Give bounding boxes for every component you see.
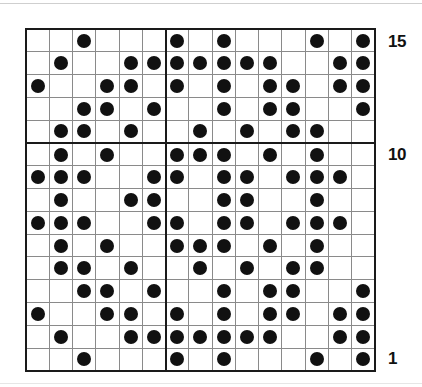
stitch-cell-filled[interactable] <box>96 234 119 257</box>
stitch-cell-empty[interactable] <box>259 189 282 212</box>
stitch-cell-filled[interactable] <box>212 143 235 166</box>
stitch-cell-empty[interactable] <box>26 280 49 303</box>
stitch-cell-empty[interactable] <box>26 52 49 75</box>
stitch-cell-empty[interactable] <box>119 280 142 303</box>
stitch-cell-filled[interactable] <box>259 234 282 257</box>
stitch-cell-empty[interactable] <box>352 120 375 143</box>
stitch-cell-empty[interactable] <box>96 348 119 371</box>
stitch-cell-filled[interactable] <box>26 75 49 98</box>
stitch-cell-empty[interactable] <box>73 189 96 212</box>
stitch-cell-filled[interactable] <box>282 120 305 143</box>
stitch-cell-empty[interactable] <box>96 189 119 212</box>
stitch-cell-empty[interactable] <box>96 52 119 75</box>
stitch-cell-filled[interactable] <box>166 166 189 189</box>
stitch-cell-filled[interactable] <box>166 29 189 52</box>
stitch-cell-empty[interactable] <box>189 189 212 212</box>
stitch-cell-filled[interactable] <box>49 120 72 143</box>
stitch-cell-empty[interactable] <box>328 280 351 303</box>
stitch-cell-filled[interactable] <box>73 280 96 303</box>
stitch-cell-empty[interactable] <box>26 325 49 348</box>
stitch-cell-empty[interactable] <box>352 211 375 234</box>
stitch-cell-filled[interactable] <box>189 257 212 280</box>
stitch-cell-filled[interactable] <box>259 280 282 303</box>
stitch-cell-filled[interactable] <box>49 257 72 280</box>
stitch-cell-filled[interactable] <box>49 211 72 234</box>
stitch-cell-filled[interactable] <box>142 52 165 75</box>
stitch-cell-empty[interactable] <box>26 257 49 280</box>
stitch-cell-filled[interactable] <box>328 52 351 75</box>
stitch-cell-filled[interactable] <box>212 166 235 189</box>
stitch-cell-empty[interactable] <box>73 303 96 326</box>
stitch-cell-empty[interactable] <box>73 75 96 98</box>
stitch-cell-filled[interactable] <box>142 166 165 189</box>
stitch-cell-filled[interactable] <box>235 52 258 75</box>
stitch-cell-filled[interactable] <box>305 120 328 143</box>
stitch-cell-empty[interactable] <box>328 120 351 143</box>
stitch-cell-filled[interactable] <box>282 166 305 189</box>
stitch-cell-filled[interactable] <box>259 52 282 75</box>
stitch-cell-filled[interactable] <box>73 120 96 143</box>
stitch-cell-empty[interactable] <box>189 166 212 189</box>
stitch-cell-filled[interactable] <box>73 211 96 234</box>
stitch-cell-empty[interactable] <box>49 348 72 371</box>
stitch-cell-empty[interactable] <box>235 75 258 98</box>
stitch-cell-filled[interactable] <box>282 280 305 303</box>
stitch-cell-empty[interactable] <box>166 97 189 120</box>
stitch-cell-empty[interactable] <box>73 325 96 348</box>
stitch-cell-empty[interactable] <box>235 303 258 326</box>
stitch-cell-filled[interactable] <box>96 280 119 303</box>
stitch-cell-filled[interactable] <box>305 143 328 166</box>
stitch-cell-filled[interactable] <box>166 303 189 326</box>
stitch-cell-filled[interactable] <box>352 97 375 120</box>
stitch-cell-filled[interactable] <box>142 97 165 120</box>
stitch-cell-empty[interactable] <box>259 29 282 52</box>
stitch-cell-empty[interactable] <box>96 325 119 348</box>
stitch-cell-filled[interactable] <box>352 325 375 348</box>
stitch-cell-empty[interactable] <box>96 166 119 189</box>
stitch-cell-empty[interactable] <box>96 211 119 234</box>
stitch-cell-filled[interactable] <box>328 75 351 98</box>
stitch-cell-filled[interactable] <box>282 97 305 120</box>
stitch-cell-filled[interactable] <box>305 211 328 234</box>
stitch-cell-empty[interactable] <box>166 280 189 303</box>
stitch-cell-filled[interactable] <box>189 234 212 257</box>
stitch-cell-empty[interactable] <box>96 120 119 143</box>
stitch-cell-filled[interactable] <box>49 52 72 75</box>
stitch-cell-empty[interactable] <box>352 257 375 280</box>
stitch-cell-filled[interactable] <box>119 120 142 143</box>
stitch-cell-filled[interactable] <box>26 303 49 326</box>
stitch-cell-filled[interactable] <box>328 166 351 189</box>
stitch-cell-empty[interactable] <box>282 143 305 166</box>
stitch-cell-empty[interactable] <box>189 75 212 98</box>
stitch-cell-empty[interactable] <box>328 234 351 257</box>
stitch-cell-empty[interactable] <box>282 189 305 212</box>
stitch-cell-filled[interactable] <box>305 234 328 257</box>
stitch-cell-empty[interactable] <box>212 120 235 143</box>
stitch-cell-filled[interactable] <box>212 211 235 234</box>
stitch-cell-filled[interactable] <box>166 325 189 348</box>
stitch-cell-empty[interactable] <box>73 234 96 257</box>
stitch-cell-empty[interactable] <box>282 234 305 257</box>
stitch-cell-filled[interactable] <box>259 303 282 326</box>
stitch-cell-filled[interactable] <box>352 52 375 75</box>
stitch-cell-empty[interactable] <box>328 348 351 371</box>
stitch-cell-filled[interactable] <box>73 166 96 189</box>
stitch-cell-filled[interactable] <box>119 52 142 75</box>
stitch-cell-filled[interactable] <box>119 303 142 326</box>
stitch-cell-empty[interactable] <box>328 189 351 212</box>
stitch-cell-filled[interactable] <box>73 97 96 120</box>
stitch-cell-empty[interactable] <box>352 166 375 189</box>
stitch-cell-filled[interactable] <box>259 143 282 166</box>
stitch-cell-filled[interactable] <box>73 257 96 280</box>
stitch-cell-filled[interactable] <box>282 75 305 98</box>
stitch-cell-empty[interactable] <box>49 75 72 98</box>
stitch-cell-empty[interactable] <box>235 280 258 303</box>
stitch-cell-filled[interactable] <box>119 189 142 212</box>
stitch-cell-empty[interactable] <box>26 234 49 257</box>
stitch-cell-filled[interactable] <box>212 325 235 348</box>
stitch-cell-filled[interactable] <box>259 75 282 98</box>
stitch-cell-empty[interactable] <box>189 348 212 371</box>
stitch-cell-filled[interactable] <box>49 189 72 212</box>
stitch-cell-empty[interactable] <box>328 97 351 120</box>
stitch-cell-empty[interactable] <box>73 143 96 166</box>
